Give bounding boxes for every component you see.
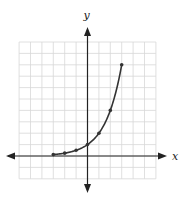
data-point — [109, 109, 113, 113]
y-axis-label: y — [83, 9, 91, 22]
x-axis-right-arrow-icon — [158, 153, 167, 160]
data-point — [86, 143, 90, 147]
x-axis-left-arrow-icon — [6, 153, 15, 160]
exponential-graph: x y — [0, 0, 180, 205]
axes: x y — [6, 9, 179, 193]
y-axis-down-arrow-icon — [84, 184, 91, 193]
data-point — [52, 153, 56, 157]
y-axis-up-arrow-icon — [84, 27, 91, 36]
data-point — [74, 149, 78, 153]
data-point — [120, 63, 124, 67]
data-point — [63, 151, 67, 155]
x-axis-label: x — [172, 150, 179, 163]
data-point — [97, 131, 101, 135]
